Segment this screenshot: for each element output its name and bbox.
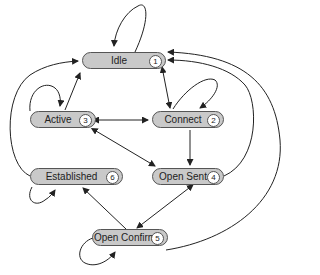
edge-idle-connect [163,72,170,108]
state-number-badge: 3 [79,114,92,127]
edge-openconfirm-established [83,188,126,229]
state-label: Established [46,171,98,182]
state-number-badge: 5 [151,232,164,245]
state-active: Active 3 [30,111,96,128]
edge-opensent-openconfirm [137,188,189,228]
state-number-badge: 6 [106,171,119,184]
edge-openconfirm-idle [166,52,280,250]
state-number-badge: 1 [149,55,162,68]
state-number-badge: 2 [207,114,220,127]
edge-active-idle [65,73,80,110]
edge-active-self [30,85,61,111]
state-connect: Connect 2 [152,111,224,128]
edge-established-self [30,187,55,203]
state-number-badge: 4 [207,171,220,184]
edge-active-opensent [96,131,155,166]
edge-idle-self [114,5,146,52]
state-open-sent: Open Sent 4 [152,168,224,185]
state-established: Established 6 [30,168,123,185]
state-label: Open Confirm [94,232,156,243]
state-label: Connect [164,114,201,125]
state-label: Open Sent [159,171,207,182]
state-open-confirm: Open Confirm 5 [92,229,168,246]
state-idle: Idle 1 [82,52,166,69]
state-label: Idle [111,55,127,66]
edge-connect-self [173,79,217,109]
state-label: Active [44,114,71,125]
